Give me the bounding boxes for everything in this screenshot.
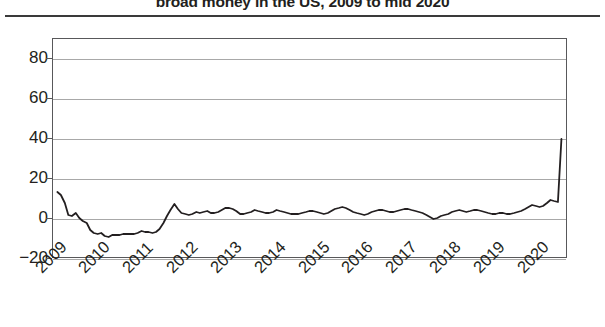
- data-line-series: [53, 39, 568, 259]
- chart-figure: broad money in the US, 2009 to mid 2020 …: [0, 0, 605, 327]
- series-polyline: [57, 139, 561, 237]
- title-divider: [5, 15, 600, 17]
- chart-title: broad money in the US, 2009 to mid 2020: [0, 0, 605, 12]
- plot-area: [52, 38, 567, 258]
